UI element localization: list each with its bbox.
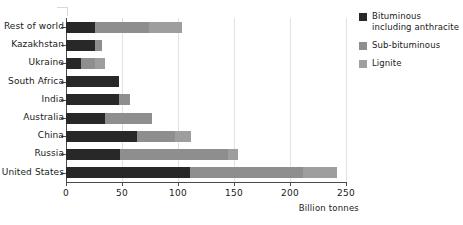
x-axis-tick [66,182,67,186]
bar-segment [149,22,183,33]
legend-label: Lignite [372,58,402,68]
bar-segment [228,149,238,160]
legend-item: Lignite [359,58,463,69]
x-axis-line [66,182,347,183]
bar-segment [95,58,105,69]
x-axis-tick [122,182,123,186]
bar-segment [66,149,120,160]
bar-segment [66,76,119,87]
category-label: China [38,130,64,140]
bar-segment [105,113,152,124]
x-axis-tick [234,182,235,186]
x-axis-tick-label: 250 [326,188,366,198]
bar-segment [66,131,137,142]
category-label: Ukraine [29,57,64,67]
x-axis-tick [290,182,291,186]
bar-segment [137,131,175,142]
bar-segment [66,58,81,69]
bar-segment [119,94,130,105]
legend-swatch [359,13,367,21]
x-axis-tick [346,182,347,186]
bar-segment [303,167,337,178]
category-label: India [41,94,64,104]
category-label: Russia [34,148,64,158]
bar-segment [66,113,105,124]
gridline [346,18,347,182]
chart-legend: Bituminous including anthraciteSub-bitum… [359,11,463,76]
legend-label: Bituminous including anthracite [372,11,459,32]
x-axis-tick-label: 0 [46,188,86,198]
x-axis-tick [178,182,179,186]
bar-segment [66,22,95,33]
horizontal-stacked-bar-chart: 050100150200250 Rest of worldKazakhstanU… [0,0,463,225]
legend-swatch [359,42,367,50]
legend-item: Sub-bituminous [359,40,463,51]
bar-segment [81,58,96,69]
bar-segment [120,149,229,160]
bar-segment [190,167,303,178]
bar-segment [66,167,190,178]
bar-segment [66,40,95,51]
bar-segment [95,22,149,33]
category-label: United States [2,167,64,177]
category-label: Australia [23,112,64,122]
category-label: South Africa [8,76,64,86]
bar-segment [66,94,119,105]
category-label: Rest of world [4,21,64,31]
legend-label: Sub-bituminous [372,40,440,50]
top-crop-artifact [57,7,68,16]
bar-segment [175,131,192,142]
legend-item: Bituminous including anthracite [359,11,463,33]
x-axis-tick-label: 100 [158,188,198,198]
x-axis-tick-label: 150 [214,188,254,198]
gridline [290,18,291,182]
x-axis-title: Billion tonnes [299,203,359,213]
legend-swatch [359,60,367,68]
x-axis-tick-label: 200 [270,188,310,198]
x-axis-tick-label: 50 [102,188,142,198]
bar-segment [95,40,102,51]
category-label: Kazakhstan [11,39,64,49]
